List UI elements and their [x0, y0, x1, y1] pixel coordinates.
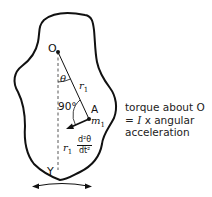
caption-line-2: = I x angular: [125, 114, 205, 127]
accel-r-subscript: 1: [68, 148, 72, 156]
label-accel-r1: r1: [63, 142, 72, 158]
right-arrowhead-icon: [85, 184, 92, 190]
oscillation-arrow: [36, 184, 88, 187]
r-subscript: 1: [84, 86, 88, 94]
caption-angular: x angular: [141, 114, 194, 126]
accel-fraction: d²θ dt²: [77, 136, 92, 155]
pendulum-diagram: [0, 0, 212, 197]
fraction-denominator: dt²: [77, 146, 92, 155]
label-m1: m1: [91, 115, 105, 131]
torque-caption: torque about O = I x angular acceleratio…: [125, 101, 205, 139]
label-theta: θ: [60, 73, 66, 84]
label-Y: Y: [47, 166, 54, 177]
caption-equals: =: [125, 114, 137, 126]
left-arrowhead-icon: [32, 184, 39, 190]
caption-line-3: acceleration: [125, 126, 205, 139]
m-subscript: 1: [100, 121, 104, 129]
label-90-degrees: 90°: [58, 101, 77, 112]
label-r1: r1: [79, 80, 88, 96]
caption-line-1: torque about O: [125, 101, 205, 114]
arrowhead-icon: [66, 124, 74, 130]
fraction-numerator: d²θ: [77, 136, 92, 146]
label-O: O: [48, 43, 57, 54]
label-A: A: [91, 104, 98, 115]
